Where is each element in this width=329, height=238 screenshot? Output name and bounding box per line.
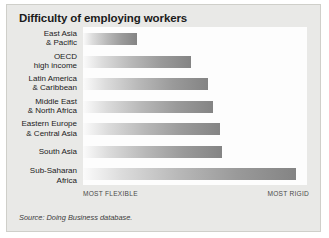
bar-oecd-high-income[interactable] [83,56,191,68]
category-label: OECD high income [34,52,77,70]
bar-track [83,101,307,113]
category-label-row: Sub-Saharan Africa [13,162,81,185]
bar-east-asia-pacific[interactable] [83,33,137,45]
bar-track [83,168,307,180]
bar-track [83,146,307,158]
chart-panel: Difficulty of employing workers East Asi… [6,4,321,232]
axis-endpoint-labels: MOST FLEXIBLE MOST RIGID [83,190,313,202]
axis-label-most-rigid: MOST RIGID [267,190,309,197]
category-label: East Asia & Pacific [44,29,77,47]
bar-track [83,33,307,45]
category-label-row: Eastern Europe & Central Asia [13,117,81,140]
bar-track [83,123,307,135]
category-label: Middle East & North Africa [28,97,77,115]
axis-label-most-flexible: MOST FLEXIBLE [83,190,138,197]
bar-middle-east-north-africa[interactable] [83,101,213,113]
bar-eastern-europe-central-asia[interactable] [83,123,220,135]
bar-track [83,78,307,90]
category-label-row: OECD high income [13,50,81,73]
bar-latin-america-caribbean[interactable] [83,78,208,90]
bar-sub-saharan-africa[interactable] [83,168,296,180]
source-note: Source: Doing Business database. [19,213,132,222]
bar-track [83,56,307,68]
category-label: South Asia [39,147,77,156]
category-label-row: East Asia & Pacific [13,27,81,50]
category-label-row: Middle East & North Africa [13,95,81,118]
plot-area [83,27,307,185]
category-label: Latin America & Caribbean [29,74,77,92]
chart-title: Difficulty of employing workers [19,12,187,24]
category-axis: East Asia & Pacific OECD high income Lat… [13,27,81,185]
category-label-row: South Asia [13,140,81,163]
category-label: Eastern Europe & Central Asia [21,119,77,137]
category-label: Sub-Saharan Africa [30,166,77,184]
category-label-row: Latin America & Caribbean [13,72,81,95]
bar-south-asia[interactable] [83,146,222,158]
